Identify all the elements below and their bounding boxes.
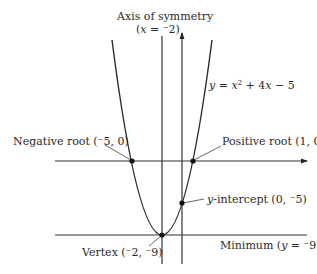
axis-of-symmetry-equation: (x = ⁻2): [136, 23, 180, 36]
positive-root-point: [190, 158, 195, 163]
vertex-point: [159, 232, 164, 237]
negative-root-label: Negative root (⁻5, 0): [13, 135, 129, 148]
y-intercept-label: y-intercept (0, ⁻5): [206, 193, 307, 206]
equation-label: y = x2 + 4x − 5: [208, 79, 295, 92]
vertex-label: Vertex (⁻2, ⁻9): [81, 246, 163, 259]
vertex-leader: [149, 236, 161, 246]
quadratic-diagram: Axis of symmetry (x = ⁻2) y = x2 + 4x − …: [0, 0, 317, 274]
y-intercept-leader: [183, 199, 204, 203]
positive-root-label: Positive root (1, 0): [222, 135, 317, 148]
positive-root-leader: [194, 146, 221, 160]
minimum-label: Minimum (y = ⁻9): [220, 239, 317, 252]
negative-root-point: [129, 158, 134, 163]
axis-of-symmetry-title: Axis of symmetry: [116, 10, 214, 23]
y-intercept-point: [179, 200, 184, 205]
